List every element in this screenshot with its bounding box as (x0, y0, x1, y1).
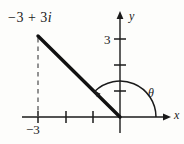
y-axis-arrowhead (117, 11, 124, 19)
modulus-ray (38, 36, 120, 117)
angle-label-theta: θ (148, 87, 154, 99)
point-label: −3 + 3i (8, 11, 52, 25)
x-axis-label: x (174, 109, 179, 121)
y-axis-label: y (129, 10, 134, 22)
x-axis-tick-label-neg3: −3 (26, 123, 40, 136)
x-axis-arrowhead (163, 114, 171, 121)
point-label-real: −3 + 3 (8, 10, 48, 25)
y-axis-tick-label-3: 3 (104, 33, 111, 46)
complex-plane-figure: −3 + 3i 3 −3 x y θ (0, 0, 184, 144)
point-label-imaginary-unit: i (48, 10, 52, 25)
